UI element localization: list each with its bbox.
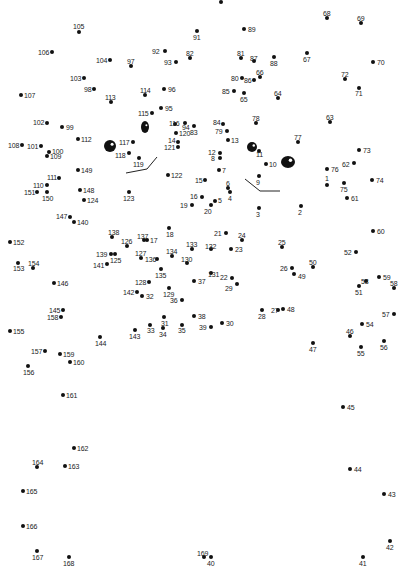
dot-109[interactable] <box>45 154 49 158</box>
dot-92[interactable] <box>163 49 167 53</box>
dot-13[interactable] <box>226 138 230 142</box>
dot-23[interactable] <box>229 247 233 251</box>
dot-150[interactable] <box>45 190 49 194</box>
dot-167[interactable] <box>35 549 39 553</box>
dot-2[interactable] <box>299 204 303 208</box>
dot-110[interactable] <box>45 183 49 187</box>
dot-42[interactable] <box>388 539 392 543</box>
dot-115[interactable] <box>150 111 154 115</box>
dot-56[interactable] <box>382 339 386 343</box>
dot-22[interactable] <box>230 276 234 280</box>
dot-142[interactable] <box>135 290 139 294</box>
dot-88[interactable] <box>272 55 276 59</box>
dot-117[interactable] <box>131 140 135 144</box>
dot-104[interactable] <box>108 58 112 62</box>
dot-119[interactable] <box>137 156 141 160</box>
dot-65[interactable] <box>242 91 246 95</box>
dot-111[interactable] <box>57 176 61 180</box>
dot-15[interactable] <box>203 178 207 182</box>
dot-16[interactable] <box>200 195 204 199</box>
dot-101[interactable] <box>39 144 43 148</box>
dot-159[interactable] <box>58 352 62 356</box>
dot-60[interactable] <box>371 229 375 233</box>
dot-168[interactable] <box>67 555 71 559</box>
dot-4[interactable] <box>228 190 232 194</box>
dot-125[interactable] <box>113 252 117 256</box>
dot-21[interactable] <box>224 231 228 235</box>
dot-54[interactable] <box>360 322 364 326</box>
dot-146[interactable] <box>52 281 56 285</box>
dot-76[interactable] <box>325 167 329 171</box>
dot-9[interactable] <box>257 174 261 178</box>
dot-155[interactable] <box>8 329 12 333</box>
dot-18[interactable] <box>167 226 171 230</box>
dot-98[interactable] <box>92 87 96 91</box>
dot-7[interactable] <box>217 168 221 172</box>
dot-26[interactable] <box>290 266 294 270</box>
dot-135[interactable] <box>159 267 163 271</box>
dot-106[interactable] <box>50 50 54 54</box>
dot-38[interactable] <box>192 314 196 318</box>
dot-157[interactable] <box>43 349 47 353</box>
dot-10[interactable] <box>264 162 268 166</box>
dot-85[interactable] <box>232 89 236 93</box>
dot-48[interactable] <box>281 307 285 311</box>
dot-83[interactable] <box>192 124 196 128</box>
dot-37[interactable] <box>192 279 196 283</box>
dot-86[interactable] <box>252 78 256 82</box>
dot-59[interactable] <box>377 275 381 279</box>
dot-145[interactable] <box>61 308 65 312</box>
dot-45[interactable] <box>341 405 345 409</box>
dot-112[interactable] <box>76 137 80 141</box>
dot-32[interactable] <box>140 294 144 298</box>
dot-84[interactable] <box>221 122 225 126</box>
dot-163[interactable] <box>63 464 67 468</box>
dot-103[interactable] <box>82 76 86 80</box>
dot-61[interactable] <box>345 196 349 200</box>
dot-3[interactable] <box>257 206 261 210</box>
dot-8[interactable] <box>218 156 222 160</box>
dot-128[interactable] <box>147 280 151 284</box>
dot-40[interactable] <box>209 555 213 559</box>
dot-99[interactable] <box>60 125 64 129</box>
dot-67[interactable] <box>305 51 309 55</box>
dot-44[interactable] <box>348 467 352 471</box>
dot-165[interactable] <box>21 489 25 493</box>
dot-55[interactable] <box>359 345 363 349</box>
dot-144[interactable] <box>98 335 102 339</box>
dot-31[interactable] <box>162 315 166 319</box>
dot-12[interactable] <box>218 151 222 155</box>
dot-156[interactable] <box>26 364 30 368</box>
dot-30[interactable] <box>220 321 224 325</box>
dot-102[interactable] <box>45 121 49 125</box>
dot-34[interactable] <box>161 326 165 330</box>
dot-166[interactable] <box>21 524 25 528</box>
dot-52[interactable] <box>354 250 358 254</box>
dot-49[interactable] <box>292 272 296 276</box>
dot-129[interactable] <box>167 286 171 290</box>
dot-162[interactable] <box>72 446 76 450</box>
dot-62[interactable] <box>352 161 356 165</box>
dot-47[interactable] <box>311 341 315 345</box>
dot-1[interactable] <box>325 183 329 187</box>
dot-93[interactable] <box>174 60 178 64</box>
dot-147[interactable] <box>68 215 72 219</box>
dot-118[interactable] <box>127 151 131 155</box>
dot-14[interactable] <box>176 140 180 144</box>
dot-91[interactable] <box>195 29 199 33</box>
dot-89[interactable] <box>242 27 246 31</box>
dot-121[interactable] <box>176 145 180 149</box>
dot-95[interactable] <box>159 106 163 110</box>
dot-158[interactable] <box>59 315 63 319</box>
dot-148[interactable] <box>78 188 82 192</box>
dot-152[interactable] <box>8 240 12 244</box>
dot-141[interactable] <box>105 262 109 266</box>
dot-29[interactable] <box>235 282 239 286</box>
dot-107[interactable] <box>19 93 23 97</box>
dot-75[interactable] <box>342 181 346 185</box>
dot-41[interactable] <box>361 555 365 559</box>
dot-151[interactable] <box>35 190 39 194</box>
dot-139[interactable] <box>109 252 113 256</box>
dot-120[interactable] <box>174 131 178 135</box>
dot-36[interactable] <box>180 298 184 302</box>
